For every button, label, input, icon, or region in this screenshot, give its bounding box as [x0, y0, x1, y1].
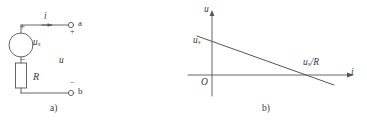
- terminal-b-node: [68, 90, 73, 95]
- source-label-subscript: s: [38, 40, 41, 47]
- origin-label: O: [201, 78, 208, 88]
- axis-label-u: u: [204, 5, 209, 15]
- terminal-b-label: b: [78, 87, 83, 96]
- terminal-a-label: a: [78, 19, 82, 28]
- current-arrow-i: [42, 23, 52, 27]
- current-label-i: i: [44, 12, 47, 22]
- source-label-us: us: [33, 38, 41, 48]
- y-intercept-label-us: us: [193, 36, 201, 46]
- port-plus-sign: +: [70, 28, 75, 36]
- resistor-label-R: R: [33, 72, 39, 82]
- x-intercept-suffix: /R: [311, 57, 319, 67]
- figure-root: i a b + − us R u + − a) u us us/R i O b): [0, 0, 367, 122]
- axis-label-i: i: [351, 68, 354, 78]
- caption-a: a): [50, 104, 57, 114]
- x-intercept-label-us-over-R: us/R: [303, 58, 319, 68]
- source-plus-sign: +: [20, 22, 25, 31]
- port-voltage-label-u: u: [59, 56, 64, 66]
- resistor-symbol: [16, 63, 27, 88]
- port-minus-sign: −: [70, 79, 75, 87]
- caption-b: b): [262, 104, 270, 114]
- y-intercept-subscript: s: [198, 38, 201, 45]
- axis-u-arrowhead: [210, 10, 215, 16]
- source-minus-sign: −: [20, 55, 25, 64]
